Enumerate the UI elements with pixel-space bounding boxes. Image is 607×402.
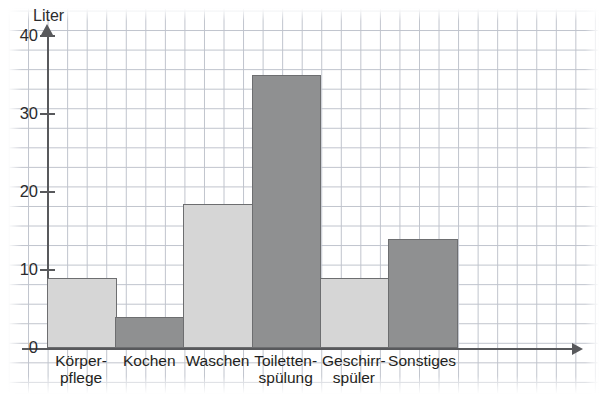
bar: [115, 317, 185, 348]
x-category-label-line2: spüler: [320, 369, 388, 386]
x-category-label: Toiletten-spülung: [252, 352, 320, 387]
x-axis-arrow-icon: [572, 343, 583, 355]
bar: [183, 204, 253, 348]
y-tick-mark: [40, 35, 55, 37]
y-tick-label-wrap: 40: [0, 36, 38, 37]
x-category-label: Geschirr-spüler: [320, 352, 388, 387]
x-category-label-line1: Sonstiges: [388, 352, 456, 369]
bar: [388, 239, 458, 348]
y-tick-label-wrap: 30: [0, 114, 38, 115]
bar: [320, 278, 390, 348]
y-tick-mark: [40, 113, 55, 115]
y-tick-label: 20: [4, 183, 38, 200]
y-tick-label: 40: [4, 27, 38, 44]
y-tick-label-wrap: 0: [0, 348, 38, 349]
x-category-label-line1: Toiletten-: [254, 352, 317, 369]
y-tick-label: 30: [4, 105, 38, 122]
bar: [252, 75, 322, 348]
x-category-label: Waschen: [183, 352, 251, 369]
bar-chart: Liter 010203040 Körper-pflegeKochenWasch…: [0, 0, 607, 402]
x-category-label-line1: Körper-: [55, 352, 107, 369]
x-category-label-line2: spülung: [252, 369, 320, 386]
x-category-label-line1: Geschirr-: [322, 352, 386, 369]
x-category-label: Kochen: [115, 352, 183, 369]
bar: [47, 278, 117, 348]
y-axis-title: Liter: [33, 7, 64, 25]
x-category-label-line1: Waschen: [185, 352, 249, 369]
x-category-label: Körper-pflege: [47, 352, 115, 387]
x-axis-line: [22, 348, 575, 350]
y-tick-label-wrap: 10: [0, 270, 38, 271]
y-tick-mark: [40, 191, 55, 193]
x-category-label-line1: Kochen: [123, 352, 176, 369]
x-category-label: Sonstiges: [388, 352, 456, 369]
x-category-label-line2: pflege: [47, 369, 115, 386]
y-tick-label: 10: [4, 261, 38, 278]
y-tick-label-wrap: 20: [0, 192, 38, 193]
y-tick-label: 0: [4, 339, 38, 356]
y-axis-arrow-icon: [41, 24, 53, 35]
y-tick-mark: [40, 269, 55, 271]
